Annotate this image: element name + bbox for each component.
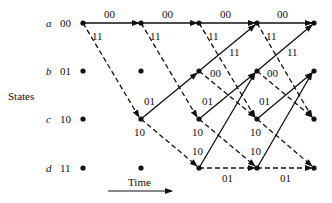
state-labels: a 00 b 01 c 10 d 11 States bbox=[8, 17, 72, 174]
state-code-c: 10 bbox=[60, 113, 72, 125]
state-letter-b: b bbox=[46, 65, 52, 77]
label-cb-1: 01 bbox=[144, 95, 155, 107]
label-ac-4: 11 bbox=[266, 30, 277, 42]
label-aa-2: 00 bbox=[162, 8, 174, 20]
states-axis-label: States bbox=[8, 90, 34, 102]
label-aa-3: 00 bbox=[220, 8, 232, 20]
label-bc-1: 00 bbox=[210, 67, 222, 79]
label-db-2: 10 bbox=[250, 145, 262, 157]
label-ac-1: 11 bbox=[92, 30, 103, 42]
branch-labels: 00 00 00 00 11 11 11 11 11 11 00 00 01 0… bbox=[92, 8, 298, 184]
state-letter-a: a bbox=[46, 17, 52, 29]
label-ac-2: 11 bbox=[150, 30, 161, 42]
state-letter-c: c bbox=[46, 113, 51, 125]
label-cd-3: 10 bbox=[250, 126, 262, 138]
label-bc-2: 00 bbox=[267, 67, 279, 79]
label-cd-1: 10 bbox=[134, 126, 146, 138]
state-letter-d: d bbox=[46, 162, 52, 174]
label-aa-1: 00 bbox=[104, 8, 116, 20]
state-code-a: 00 bbox=[60, 17, 72, 29]
label-db-1: 10 bbox=[192, 145, 204, 157]
time-axis-label: Time bbox=[128, 176, 151, 188]
label-cb-3: 01 bbox=[259, 95, 270, 107]
state-code-d: 11 bbox=[60, 162, 71, 174]
label-dd-1: 01 bbox=[222, 172, 233, 184]
label-cb-2: 01 bbox=[202, 95, 213, 107]
label-dd-2: 01 bbox=[280, 172, 291, 184]
label-aa-4: 00 bbox=[277, 8, 289, 20]
label-ba-1: 11 bbox=[229, 46, 240, 58]
trellis-diagram: a 00 b 01 c 10 d 11 States bbox=[0, 0, 332, 203]
label-ba-2: 11 bbox=[287, 46, 298, 58]
state-code-b: 01 bbox=[60, 65, 71, 77]
label-cd-2: 10 bbox=[192, 126, 204, 138]
label-ac-3: 11 bbox=[208, 30, 219, 42]
